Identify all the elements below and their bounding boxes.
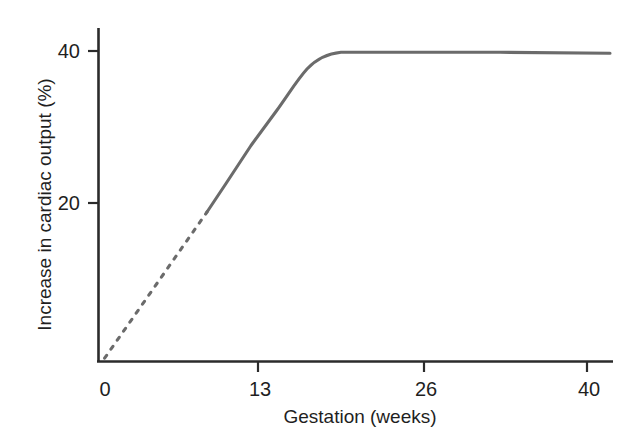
- x-tick-label-40: 40: [578, 379, 600, 399]
- chart-figure: 40 20 0 13 26 40 Increase in cardiac out…: [0, 0, 635, 441]
- x-tick-label-13: 13: [249, 379, 271, 399]
- x-tick-label-26: 26: [415, 379, 437, 399]
- x-tick-label-0: 0: [99, 379, 110, 399]
- plot-area: [0, 0, 635, 441]
- y-axis-title: Increase in cardiac output (%): [35, 55, 54, 355]
- series-dashed-segment: [105, 212, 207, 358]
- series-solid-segment: [207, 52, 610, 212]
- x-axis-title: Gestation (weeks): [228, 407, 492, 426]
